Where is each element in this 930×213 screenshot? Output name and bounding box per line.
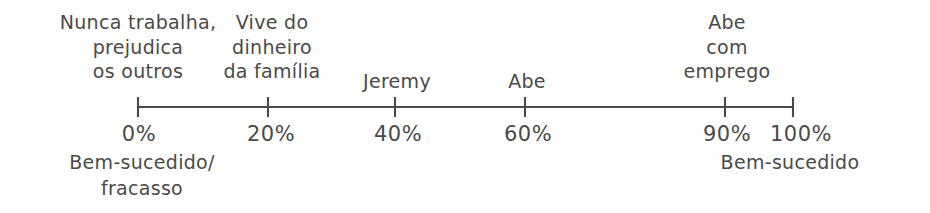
tick-value-100: 100%: [770, 122, 832, 146]
handwritten-scale-diagram: Nunca trabalha, prejudica os outros Vive…: [0, 0, 930, 213]
tick-value-20: 20%: [247, 122, 295, 146]
tick-value-40: 40%: [374, 122, 422, 146]
tick-above-label-90: Abe com emprego: [637, 10, 817, 84]
anchor-label-left: Bem-sucedido/ fracasso: [12, 150, 272, 201]
tick-value-0: 0%: [122, 122, 156, 146]
tick-above-label-60: Abe: [447, 69, 607, 94]
tick-value-60: 60%: [504, 122, 552, 146]
anchor-label-right: Bem-sucedido: [650, 150, 930, 176]
tick-value-90: 90%: [703, 122, 751, 146]
